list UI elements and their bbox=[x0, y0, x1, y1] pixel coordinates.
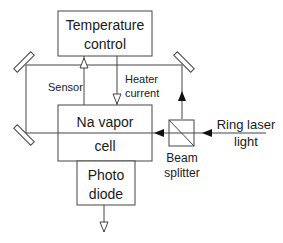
photo-diode-block: Photo diode bbox=[77, 161, 135, 205]
na-vapor-cell-label-2: cell bbox=[94, 138, 115, 154]
sensor-arrow-up-icon bbox=[80, 58, 88, 68]
ring-laser-label-1: Ring laser bbox=[217, 117, 276, 132]
heater-current-label-1: Heater bbox=[125, 73, 158, 85]
na-vapor-cell-label-1: Na vapor bbox=[77, 114, 134, 130]
ring-laser-label-2: light bbox=[234, 134, 258, 149]
sensor-label: Sensor bbox=[48, 81, 83, 93]
laser-arrow-left-icon bbox=[202, 129, 212, 137]
cell-arrow-left-icon bbox=[154, 129, 164, 137]
heater-arrow-down-icon bbox=[113, 94, 121, 104]
temperature-control-block: Temperature control bbox=[58, 11, 152, 56]
temperature-control-label-2: control bbox=[84, 36, 126, 52]
beam-splitter-label-1: Beam bbox=[166, 151, 197, 165]
optical-setup-diagram: Temperature control Na vapor cell Photo … bbox=[0, 0, 283, 243]
mirror-bottom-left-icon bbox=[14, 125, 35, 146]
temperature-control-label-1: Temperature bbox=[66, 17, 145, 33]
beam-splitter-icon bbox=[169, 120, 194, 146]
beam-arrow-up-icon bbox=[178, 91, 186, 101]
photo-diode-label-1: Photo bbox=[88, 167, 125, 183]
output-arrow-down-icon bbox=[100, 222, 108, 232]
mirror-top-left-icon bbox=[14, 52, 35, 73]
na-vapor-cell-block: Na vapor cell bbox=[58, 105, 152, 161]
heater-current-label-2: current bbox=[125, 87, 159, 99]
mirror-top-right-icon bbox=[174, 52, 195, 73]
photo-diode-label-2: diode bbox=[89, 186, 123, 202]
beam-splitter-label-2: splitter bbox=[164, 166, 199, 180]
